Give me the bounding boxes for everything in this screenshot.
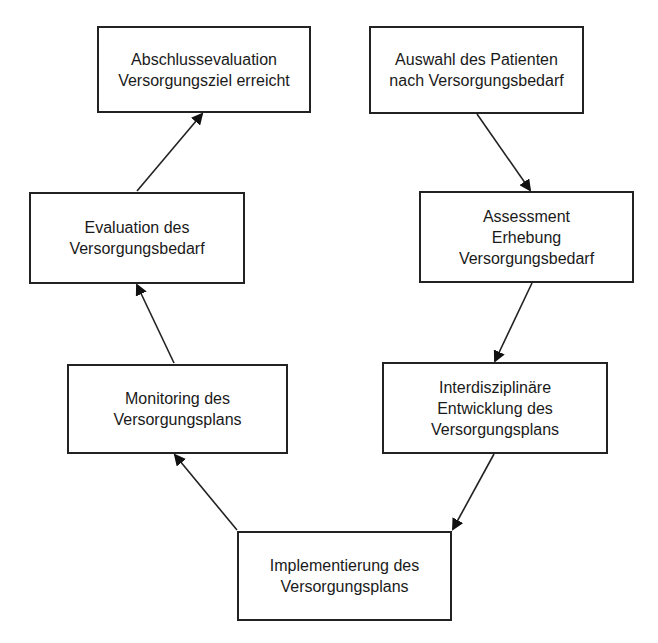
- box-text: Interdisziplinäre: [439, 377, 551, 398]
- box-text: Versorgungsplans: [431, 419, 559, 440]
- box-implementierung: Implementierung des Versorgungsplans: [237, 531, 452, 621]
- arrow-implementierung-to-monitoring: [175, 455, 237, 530]
- arrow-auswahl-to-assessment: [477, 114, 530, 190]
- box-evaluation: Evaluation des Versorgungsbedarf: [29, 192, 245, 284]
- box-abschlussevaluation: Abschlussevaluation Versorgungsziel erre…: [97, 26, 311, 113]
- box-text: Versorgungsziel erreicht: [118, 70, 290, 91]
- box-text: Versorgungsplans: [113, 409, 241, 430]
- box-text: Versorgungsbedarf: [69, 238, 204, 259]
- box-interdisziplinaere-entwicklung: Interdisziplinäre Entwicklung des Versor…: [382, 362, 608, 454]
- box-assessment: Assessment Erhebung Versorgungsbedarf: [419, 191, 634, 283]
- arrow-assessment-to-entwicklung: [495, 283, 532, 361]
- box-text: Auswahl des Patienten: [395, 49, 558, 70]
- box-text: Versorgungsplans: [280, 576, 408, 597]
- box-text: Erhebung: [492, 227, 561, 248]
- box-text: Evaluation des: [85, 217, 190, 238]
- box-text: nach Versorgungsbedarf: [389, 70, 563, 91]
- box-text: Assessment: [483, 206, 570, 227]
- box-monitoring: Monitoring des Versorgungsplans: [67, 364, 288, 454]
- box-text: Versorgungsbedarf: [459, 248, 594, 269]
- box-text: Implementierung des: [270, 555, 419, 576]
- box-auswahl-patienten: Auswahl des Patienten nach Versorgungsbe…: [369, 26, 584, 114]
- arrow-monitoring-to-evaluation: [137, 285, 174, 363]
- arrow-entwicklung-to-implementierung: [453, 454, 494, 529]
- box-text: Monitoring des: [125, 388, 230, 409]
- arrow-evaluation-to-abschluss: [137, 114, 202, 191]
- box-text: Abschlussevaluation: [131, 49, 277, 70]
- box-text: Entwicklung des: [437, 398, 553, 419]
